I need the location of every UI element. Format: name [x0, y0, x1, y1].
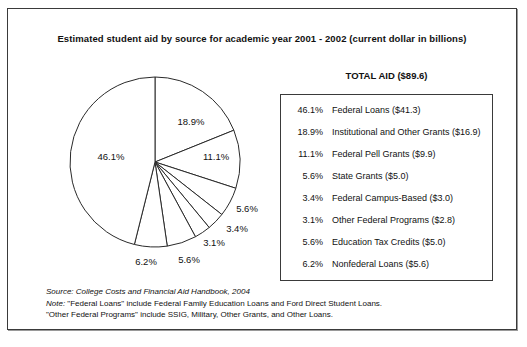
legend-label: Federal Loans ($41.3)	[323, 105, 421, 115]
legend-label: Nonfederal Loans ($5.6)	[323, 259, 429, 269]
chart-page: Estimated student aid by source for acad…	[0, 0, 527, 347]
legend-row: 46.1%Federal Loans ($41.3)	[281, 105, 492, 127]
legend-row: 18.9%Institutional and Other Grants ($16…	[281, 127, 492, 149]
note-federal-loans: Note: "Federal Loans" include Federal Fa…	[46, 298, 382, 310]
legend-label: Education Tax Credits ($5.0)	[323, 237, 445, 247]
legend-percent: 3.1%	[290, 215, 323, 225]
footnotes: Source: College Costs and Financial Aid …	[46, 286, 382, 321]
legend-label: Other Federal Programs ($2.8)	[323, 215, 455, 225]
note-other-federal-programs: "Other Federal Programs" include SSIG, M…	[46, 309, 382, 321]
legend-row: 3.1%Other Federal Programs ($2.8)	[281, 215, 492, 237]
legend-row: 11.1%Federal Pell Grants ($9.9)	[281, 149, 492, 171]
pie-slice-label: 5.6%	[178, 254, 200, 265]
pie-slice-label: 46.1%	[98, 151, 125, 162]
chart-frame: Estimated student aid by source for acad…	[7, 8, 517, 330]
legend-row: 5.6%Education Tax Credits ($5.0)	[281, 237, 492, 259]
legend-row: 6.2%Nonfederal Loans ($5.6)	[281, 259, 492, 281]
pie-slice-label: 3.4%	[226, 223, 248, 234]
legend-label: Federal Campus-Based ($3.0)	[323, 193, 453, 203]
legend-box: 46.1%Federal Loans ($41.3)18.9%Instituti…	[280, 94, 493, 281]
legend-label: Institutional and Other Grants ($16.9)	[323, 127, 481, 137]
note-source: Source: College Costs and Financial Aid …	[46, 286, 382, 298]
note-text: "Federal Loans" include Federal Family E…	[65, 299, 382, 308]
legend-percent: 5.6%	[290, 171, 323, 181]
pie-slice-label: 6.2%	[135, 256, 157, 267]
legend-percent: 3.4%	[290, 193, 323, 203]
legend-row: 5.6%State Grants ($5.0)	[281, 171, 492, 193]
legend-percent: 46.1%	[290, 105, 323, 115]
pie-slice-label: 3.1%	[203, 237, 225, 248]
pie-slices	[70, 77, 240, 247]
pie-slice-label: 5.6%	[236, 203, 258, 214]
legend-percent: 5.6%	[290, 237, 323, 247]
legend-percent: 18.9%	[290, 127, 323, 137]
pie-slice-label: 11.1%	[203, 151, 229, 162]
pie-chart: 18.9%11.1%5.6%3.4%3.1%5.6%6.2%46.1%	[60, 62, 260, 262]
note-label: Note:	[46, 299, 65, 308]
pie-slice-label: 18.9%	[178, 116, 205, 127]
legend-label: State Grants ($5.0)	[323, 171, 409, 181]
legend-percent: 11.1%	[290, 149, 323, 159]
page-title: Estimated student aid by source for acad…	[8, 33, 516, 44]
legend-heading: TOTAL AID ($89.6)	[280, 70, 493, 81]
legend-row: 3.4%Federal Campus-Based ($3.0)	[281, 193, 492, 215]
legend-label: Federal Pell Grants ($9.9)	[323, 149, 436, 159]
legend-percent: 6.2%	[290, 259, 323, 269]
